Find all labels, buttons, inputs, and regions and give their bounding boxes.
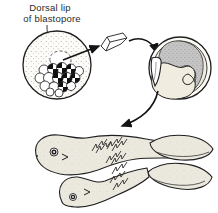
- development-arrow: [122, 91, 158, 126]
- label-dorsal-lip-line2: of blastopore: [23, 13, 81, 24]
- transplant-arrow: [129, 39, 157, 53]
- secondary-eye: [70, 194, 77, 201]
- primary-eye: [50, 148, 58, 156]
- donor-embryo: [23, 31, 91, 99]
- primary-nostril-dot: [36, 155, 38, 157]
- twin-tadpole: [36, 135, 213, 207]
- excised-tissue-piece: [101, 33, 127, 51]
- label-dorsal-lip-line1: Dorsal lip: [29, 2, 71, 13]
- organizer-experiment-diagram: Dorsal lip of blastopore: [0, 0, 218, 213]
- diagram-canvas: Dorsal lip of blastopore: [0, 0, 218, 213]
- host-embryo: [149, 37, 211, 99]
